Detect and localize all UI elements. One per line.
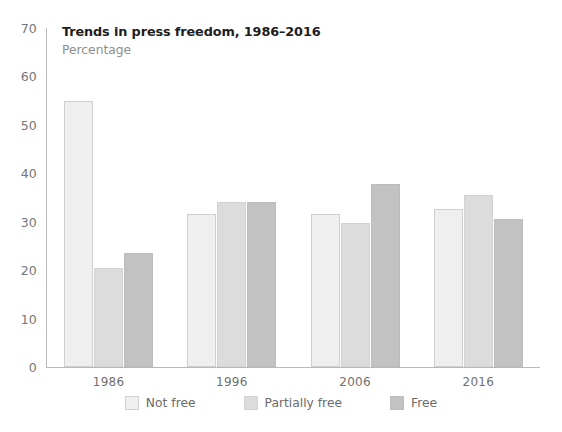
y-axis-tick-label: 40 xyxy=(21,166,37,181)
x-axis-tick-label: 1996 xyxy=(170,375,293,389)
bar-groups: 1986199620062016 xyxy=(47,28,540,367)
legend-item: Not free xyxy=(125,396,196,410)
bar xyxy=(341,223,370,367)
bar xyxy=(187,214,216,367)
chart-legend: Not freePartially freeFree xyxy=(0,396,562,410)
y-axis-tick-label: 60 xyxy=(21,69,37,84)
bar-group: 1986 xyxy=(47,28,170,367)
x-axis-tick-label: 2016 xyxy=(417,375,540,389)
legend-item: Partially free xyxy=(244,396,343,410)
bar xyxy=(217,202,246,367)
bar-group-bars xyxy=(47,28,170,367)
legend-swatch-icon xyxy=(244,396,258,410)
legend-label: Partially free xyxy=(265,396,343,410)
y-axis-tick-label: 70 xyxy=(21,21,37,36)
bar xyxy=(464,195,493,367)
plot-area: 010203040506070 1986199620062016 xyxy=(46,28,540,368)
x-axis-tick-label: 1986 xyxy=(47,375,170,389)
legend-swatch-icon xyxy=(125,396,139,410)
y-axis-tick-label: 30 xyxy=(21,214,37,229)
bar xyxy=(434,209,463,367)
bar-group: 2006 xyxy=(294,28,417,367)
bar xyxy=(124,253,153,367)
bar-group-bars xyxy=(294,28,417,367)
bar xyxy=(371,184,400,367)
bar xyxy=(94,268,123,367)
bar xyxy=(494,219,523,367)
y-axis-tick-label: 50 xyxy=(21,117,37,132)
bar xyxy=(311,214,340,367)
bar-group-bars xyxy=(417,28,540,367)
legend-swatch-icon xyxy=(390,396,404,410)
bar xyxy=(247,202,276,367)
legend-label: Free xyxy=(411,396,437,410)
legend-label: Not free xyxy=(146,396,196,410)
y-axis-tick-label: 10 xyxy=(21,311,37,326)
bar-group: 1996 xyxy=(170,28,293,367)
x-axis-tick-label: 2006 xyxy=(294,375,417,389)
bar-group: 2016 xyxy=(417,28,540,367)
legend-item: Free xyxy=(390,396,437,410)
y-axis-tick-label: 0 xyxy=(29,360,37,375)
bar-chart: Trends in press freedom, 1986–2016 Perce… xyxy=(0,0,562,432)
bar-group-bars xyxy=(170,28,293,367)
bar xyxy=(64,101,93,367)
x-axis-line xyxy=(46,367,540,368)
y-axis-tick-label: 20 xyxy=(21,263,37,278)
